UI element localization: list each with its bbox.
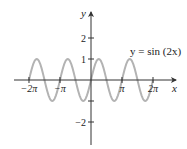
y-tick-label: −2	[75, 117, 86, 128]
graph-canvas: −2π−ππ2π21−2 x y y = sin (2x)	[0, 0, 187, 149]
x-tick-label: −π	[54, 83, 67, 94]
x-tick-label: π	[119, 83, 125, 94]
y-tick-label: 1	[81, 54, 86, 65]
y-axis-label: y	[80, 7, 86, 19]
x-tick-label: 2π	[148, 83, 159, 94]
x-tick-label: −2π	[21, 83, 39, 94]
sine-graph: −2π−ππ2π21−2 x y y = sin (2x)	[0, 0, 187, 149]
function-label: y = sin (2x)	[130, 45, 181, 58]
x-axis-label: x	[171, 82, 177, 94]
y-tick-label: 2	[81, 33, 86, 44]
